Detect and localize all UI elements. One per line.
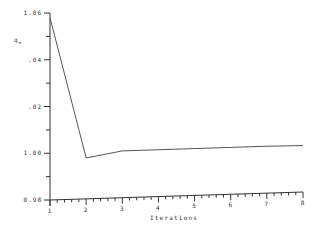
y-tick-label: 1.06 xyxy=(24,9,42,16)
y-tick-label: 0.98 xyxy=(24,196,42,203)
x-tick-label: 8 xyxy=(301,199,306,206)
x-tick-label: 3 xyxy=(120,205,125,212)
y-axis-label: qe xyxy=(14,36,22,45)
x-tick-label: 7 xyxy=(265,200,270,207)
y-tick-label: .04 xyxy=(28,56,42,63)
line-chart: 1.06.04.021.000.98 12345678 qe Iteration… xyxy=(0,0,321,233)
y-axis: 1.06.04.021.000.98 xyxy=(24,9,50,206)
x-tick-label: 4 xyxy=(156,204,161,211)
y-tick-label: .02 xyxy=(28,103,42,110)
y-tick-label: 1.00 xyxy=(24,149,42,156)
x-tick-label: 6 xyxy=(228,201,233,208)
data-line xyxy=(50,18,303,158)
x-axis-label: Iterations xyxy=(150,214,198,221)
x-axis: 12345678 xyxy=(48,192,306,214)
x-tick-label: 1 xyxy=(48,207,53,214)
x-tick-label: 2 xyxy=(84,206,89,213)
x-tick-label: 5 xyxy=(192,202,197,209)
